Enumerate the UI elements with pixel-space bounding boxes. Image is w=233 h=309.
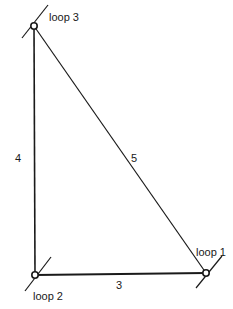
label-loop1: loop 1: [196, 246, 226, 258]
loop3-tick: [22, 5, 48, 38]
edge-loop2-loop1: [35, 273, 206, 275]
label-loop2: loop 2: [33, 290, 63, 302]
edge-label-4: 4: [15, 152, 21, 164]
edge-loop3-loop1: [34, 26, 206, 273]
node-loop3: [31, 23, 37, 29]
edge-label-5: 5: [131, 152, 137, 164]
loop-graph-diagram: loop 3 loop 1 loop 2 4 5 3: [0, 0, 233, 309]
edge-loop2-loop3: [34, 26, 35, 275]
label-loop3: loop 3: [49, 11, 79, 23]
edge-label-3: 3: [116, 279, 122, 291]
node-loop2: [32, 272, 38, 278]
node-loop1: [203, 270, 209, 276]
